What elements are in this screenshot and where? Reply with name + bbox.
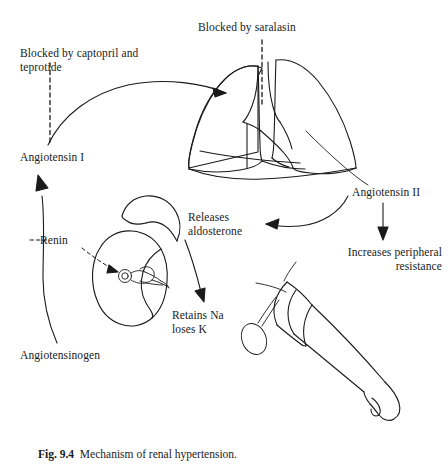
angiotensin-ii-leader-line bbox=[306, 131, 368, 185]
kidney-illustration bbox=[93, 231, 168, 326]
figure-caption-text: Mechanism of renal hypertension. bbox=[80, 448, 237, 460]
lungs-illustration bbox=[189, 60, 356, 179]
arm-with-blood-pressure-cuff-illustration bbox=[237, 262, 400, 420]
increases-peripheral-line1: Increases peripheral bbox=[348, 246, 442, 258]
ace-conversion-arrow bbox=[48, 81, 226, 145]
figure-renal-hypertension: Blocked by captopril and teprotide Block… bbox=[0, 0, 448, 476]
increases-peripheral-line2: resistance bbox=[396, 260, 442, 272]
renin-conversion-arrow bbox=[36, 175, 57, 343]
label-blocked-by-captopril: Blocked by captopril and teprotide bbox=[20, 46, 138, 74]
label-blocked-by-saralasin: Blocked by saralasin bbox=[198, 20, 296, 34]
label-angiotensin-ii: Angiotensin II bbox=[352, 185, 420, 199]
figure-caption: Fig. 9.4 Mechanism of renal hypertension… bbox=[38, 448, 237, 460]
figure-number: Fig. 9.4 bbox=[38, 448, 74, 460]
label-releases-aldosterone: Releases aldosterone bbox=[188, 210, 242, 238]
label-angiotensin-i: Angiotensin I bbox=[20, 150, 84, 164]
sodium-retention-arrow bbox=[185, 240, 205, 302]
renin-leader-right bbox=[82, 248, 118, 273]
peripheral-resistance-arrow bbox=[378, 203, 388, 240]
aldosterone-release-arrow bbox=[266, 196, 348, 229]
label-renin: Renin bbox=[40, 233, 68, 247]
label-angiotensinogen: Angiotensinogen bbox=[20, 348, 100, 362]
label-retains-na-loses-k: Retains Na loses K bbox=[172, 308, 224, 336]
adrenal-gland-illustration bbox=[122, 196, 180, 241]
label-increases-peripheral-resistance: Increases peripheralresistance bbox=[309, 245, 442, 273]
figure-caption-bar: Fig. 9.4 Mechanism of renal hypertension… bbox=[0, 448, 448, 476]
